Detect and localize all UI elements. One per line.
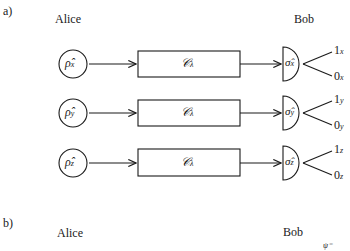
panel-b-label: b)	[3, 216, 13, 231]
state-rho-x: ρ̂x	[65, 56, 74, 71]
alice-label-b: Alice	[57, 226, 83, 241]
outcome-0x: 0x	[334, 69, 344, 84]
diagram-lines	[0, 0, 350, 251]
channel-label-z: 𝒞λ⃗	[181, 155, 200, 170]
outcome-1z: 1z	[334, 142, 343, 157]
state-rho-z: ρ̂z	[65, 155, 74, 170]
outcome-1y: 1y	[334, 92, 344, 107]
bob-label-b: Bob	[283, 225, 303, 240]
partial-psi-minus: ψ⁻	[323, 241, 332, 250]
outcome-0z: 0z	[334, 168, 343, 183]
panel-a-label: a)	[3, 4, 12, 19]
channel-label-y: 𝒞λ⃗	[181, 105, 200, 120]
outcome-1x: 1x	[334, 43, 344, 58]
measurement-sigma-x: σ̂x	[285, 56, 294, 68]
alice-label-a: Alice	[55, 12, 81, 27]
bob-label-a: Bob	[294, 12, 314, 27]
measurement-sigma-y: σ̂y	[285, 105, 294, 117]
measurement-sigma-z: σ̂z	[285, 155, 294, 167]
channel-label-x: 𝒞λ⃗	[181, 56, 200, 71]
outcome-0y: 0y	[334, 118, 344, 133]
state-rho-y: ρ̂y	[65, 105, 74, 120]
